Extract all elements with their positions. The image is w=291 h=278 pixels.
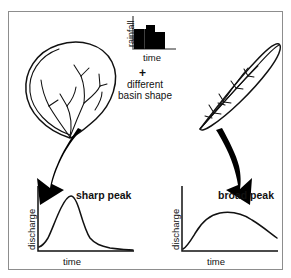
broad-peak-curve (183, 212, 277, 249)
right-basin-outline (200, 44, 280, 130)
sharp-peak-ylabel: discharge (26, 209, 37, 250)
left-basin-stream-network (41, 65, 107, 137)
middle-line-1: different (113, 79, 177, 90)
broad-peak-xlabel: time (186, 256, 246, 267)
sharp-peak-xlabel: time (42, 256, 102, 267)
broad-peak-label: broad peak (218, 189, 274, 201)
rainfall-chart (133, 16, 176, 49)
sharp-peak-label: sharp peak (76, 189, 131, 201)
plus-symbol: + (139, 66, 146, 80)
right-basin-stream-network (200, 66, 258, 129)
middle-line-2: basin shape (107, 90, 183, 101)
diagram-artwork (0, 0, 291, 278)
sharp-peak-curve (39, 196, 133, 250)
broad-peak-ylabel: discharge (170, 209, 181, 250)
left-basin-inner-rim (30, 49, 70, 135)
rainfall-bars (134, 25, 165, 49)
rainfall-ylabel: rainfall (126, 20, 136, 47)
right-basin-inner-rim (201, 45, 279, 128)
diagram-root: rainfall time + different basin shape sh… (0, 0, 291, 278)
rainfall-xlabel: time (130, 52, 174, 63)
